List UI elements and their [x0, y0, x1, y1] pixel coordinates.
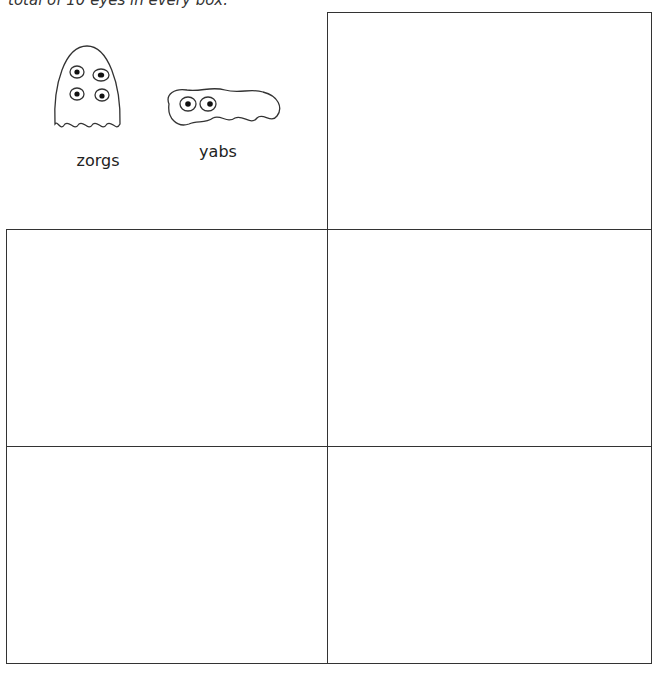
zorgs-label: zorgs	[68, 151, 128, 170]
answer-box-r3-c1[interactable]	[6, 446, 328, 664]
zorg-creature-icon	[50, 44, 125, 139]
answer-box-r3-c2[interactable]	[327, 446, 652, 664]
yabs-label: yabs	[188, 142, 248, 161]
instruction-text: total of 10 eyes in every box.	[8, 0, 228, 9]
answer-box-r2-c2[interactable]	[327, 229, 652, 447]
answer-box-r1-c2[interactable]	[327, 12, 652, 230]
answer-box-r2-c1[interactable]	[6, 229, 328, 447]
yab-creature-icon	[163, 84, 285, 134]
